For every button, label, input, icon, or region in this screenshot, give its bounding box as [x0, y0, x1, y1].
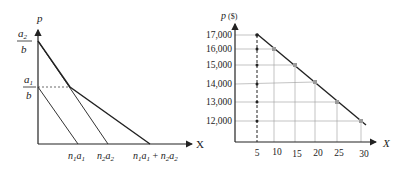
market-demand-line	[38, 41, 150, 144]
svg-text:a1: a1	[24, 73, 33, 87]
demand-line-type1	[38, 87, 78, 144]
right-x-axis-label: X	[382, 137, 391, 149]
svg-text:14,000: 14,000	[206, 79, 232, 89]
tick-a2-over-b: a2 b	[17, 27, 32, 55]
svg-text:25: 25	[334, 148, 344, 158]
svg-text:b: b	[21, 43, 27, 55]
tick-n2a2: n2a2	[97, 150, 115, 163]
svg-text:13,000: 13,000	[206, 97, 232, 107]
svg-text:17,000: 17,000	[206, 30, 232, 40]
svg-text:12,000: 12,000	[206, 116, 232, 126]
right-x-tick-labels: 5 10 15 20 25 30	[255, 147, 369, 159]
svg-text:15: 15	[292, 149, 302, 159]
right-y-axis-label: p ($)	[220, 10, 238, 21]
svg-text:16,000: 16,000	[206, 44, 232, 54]
svg-text:10: 10	[272, 147, 282, 157]
svg-text:30: 30	[359, 149, 369, 159]
right-y-tick-labels: 17,000 16,000 15,000 14,000 13,000 12,00…	[206, 30, 232, 126]
tick-n1a1: n1a1	[68, 150, 85, 163]
svg-text:20: 20	[313, 148, 323, 158]
left-x-axis-label: X	[196, 138, 204, 150]
grid	[235, 35, 361, 142]
svg-text:5: 5	[255, 148, 260, 158]
svg-text:b: b	[26, 89, 32, 101]
tick-n1a1-plus-n2a2: n1a1 + n2a2	[133, 150, 178, 163]
svg-text:15,000: 15,000	[206, 60, 232, 70]
tick-a1-over-b: a1 b	[23, 73, 36, 101]
left-y-axis-label: p	[36, 12, 43, 24]
left-chart: p X a2 b a1 b n1a1 n2a2 n1a1 + n2a2	[17, 12, 204, 163]
right-chart: p ($) X 17,000 16,000 15,000 14,000	[206, 10, 391, 159]
svg-text:a2: a2	[18, 27, 28, 41]
figure: p X a2 b a1 b n1a1 n2a2 n1a1 + n2a2	[0, 0, 406, 170]
